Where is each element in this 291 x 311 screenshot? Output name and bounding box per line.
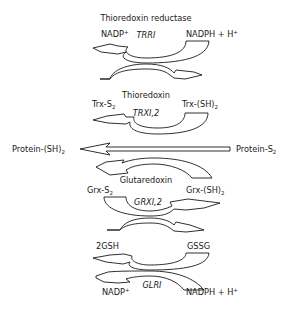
glr-gssg-arrow <box>93 253 209 270</box>
trri-reduction-arrow <box>100 64 202 79</box>
label-part: 2 <box>110 190 114 196</box>
glri-enzyme-label: GLRI <box>142 280 162 290</box>
label-part: 2 <box>221 190 225 196</box>
label-part: + <box>125 287 130 293</box>
glutaredoxin-title: Glutaredoxin <box>120 175 173 185</box>
label-part: + <box>124 29 129 35</box>
label-part: Trx-S <box>91 99 112 109</box>
trri-enzyme-label: TRRI <box>137 30 156 40</box>
nadp-label-top: NADP+ <box>101 29 129 39</box>
gssg-label: GSSG <box>187 241 210 251</box>
label-part: Trx-(SH) <box>181 99 214 109</box>
thioredoxin-title: Thioredoxin <box>121 90 170 100</box>
label-part: NADP <box>102 287 125 297</box>
label-part: 2 <box>273 149 277 155</box>
protein-reduction-arrow <box>80 143 230 155</box>
label-part: NADP <box>101 29 124 39</box>
grx-oxidation-arrow <box>107 218 204 232</box>
label-part: NADPH + H <box>186 287 233 297</box>
nadph-label-top: NADPH + H+ <box>186 29 238 39</box>
label-part: 2 <box>61 149 65 155</box>
label-part: + <box>233 287 238 293</box>
trx-sh2-label: Trx-(SH)2 <box>181 99 218 110</box>
nadph-label-bottom: NADPH + H+ <box>186 287 238 297</box>
trri-oxidation-arrow <box>93 41 209 63</box>
label-part: Protein-S <box>236 144 273 154</box>
grx-s2-label: Grx-S2 <box>87 185 113 196</box>
label-part: Grx-S <box>87 185 110 195</box>
trx-s2-label: Trx-S2 <box>91 99 115 110</box>
trxi2-enzyme-label: TRXI,2 <box>133 108 160 118</box>
label-part: Grx-(SH) <box>186 185 221 195</box>
thioredoxin-reductase-title: Thioredoxin reductase <box>99 13 191 23</box>
label-part: + <box>233 29 238 35</box>
grx-reduction-arrow <box>104 197 220 216</box>
label-part: 2 <box>112 104 116 110</box>
grx-sh2-label: Grx-(SH)2 <box>186 185 225 196</box>
grxi2-enzyme-label: GRXI,2 <box>134 197 162 207</box>
2gsh-label: 2GSH <box>96 241 119 251</box>
protein-sh2-label: Protein-(SH)2 <box>12 144 65 155</box>
nadp-label-bottom: NADP+ <box>102 287 130 297</box>
protein-s2-label: Protein-S2 <box>236 144 276 155</box>
thiol-redox-pathway-diagram: Thioredoxin reductase NADP+ TRRI NADPH +… <box>0 0 291 311</box>
label-part: 2 <box>214 104 218 110</box>
label-part: Protein-(SH) <box>12 144 61 154</box>
label-part: NADPH + H <box>186 29 233 39</box>
